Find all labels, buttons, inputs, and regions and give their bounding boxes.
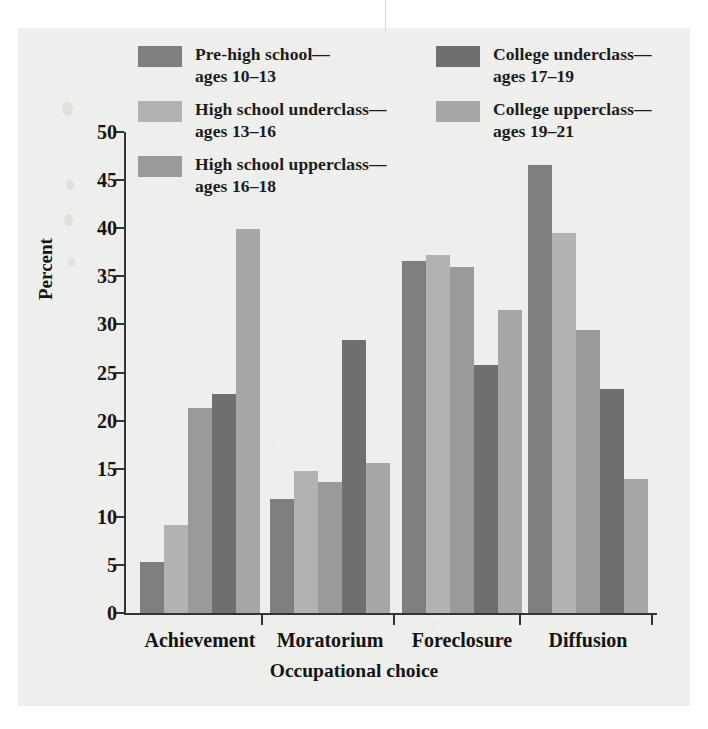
- y-tick-label: 30: [97, 313, 117, 336]
- bar-group: [528, 132, 648, 613]
- y-tick-label: 15: [97, 458, 117, 481]
- bar: [236, 229, 260, 613]
- y-tick-label: 50: [97, 121, 117, 144]
- bar: [498, 310, 522, 613]
- bar-group: [270, 132, 390, 613]
- x-tick-mark: [393, 615, 395, 625]
- bar: [212, 394, 236, 613]
- bar: [600, 389, 624, 613]
- bar: [450, 267, 474, 613]
- bar-group-bars: [140, 132, 260, 613]
- y-tick-label: 25: [97, 362, 117, 385]
- y-tick-label: 45: [97, 169, 117, 192]
- bar-group-bars: [528, 132, 648, 613]
- y-tick-label: 20: [97, 410, 117, 433]
- bar: [342, 340, 366, 613]
- bar: [140, 562, 164, 613]
- x-axis-spine: [124, 613, 657, 615]
- x-tick-mark: [519, 615, 521, 625]
- figure-root: Pre-high school— ages 10–13 High school …: [0, 0, 708, 729]
- bar: [474, 365, 498, 613]
- bar: [270, 499, 294, 613]
- y-tick-label: 0: [107, 602, 117, 625]
- y-tick-label: 40: [97, 217, 117, 240]
- bar: [624, 479, 648, 613]
- bar-group-bars: [402, 132, 522, 613]
- plot-area: Percent 05101520253035404550 Achievement…: [0, 0, 708, 729]
- bar: [164, 525, 188, 614]
- bar-group-bars: [270, 132, 390, 613]
- bar: [528, 165, 552, 613]
- x-tick-mark: [651, 615, 653, 625]
- bar: [318, 482, 342, 613]
- y-tick-label: 5: [107, 554, 117, 577]
- bar: [294, 471, 318, 613]
- x-tick-mark: [261, 615, 263, 625]
- bar: [188, 408, 212, 613]
- bar: [552, 233, 576, 613]
- bar-group: [140, 132, 260, 613]
- y-tick-label: 35: [97, 265, 117, 288]
- y-axis-title: Percent: [35, 238, 57, 300]
- axes: 05101520253035404550 AchievementMoratori…: [124, 132, 657, 613]
- bar: [576, 330, 600, 613]
- bar: [366, 463, 390, 613]
- bar: [402, 261, 426, 613]
- y-tick-label: 10: [97, 506, 117, 529]
- y-axis-spine: [124, 132, 126, 613]
- bar: [426, 255, 450, 613]
- x-axis-title: Occupational choice: [0, 660, 708, 682]
- category-label: Diffusion: [498, 629, 678, 652]
- bar-group: [402, 132, 522, 613]
